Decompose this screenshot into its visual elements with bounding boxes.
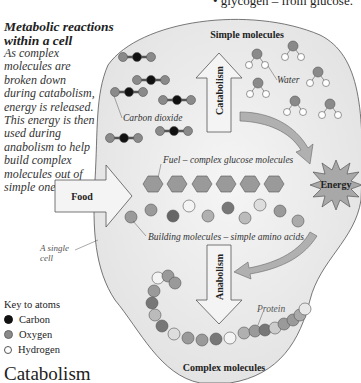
cell-label-line-1: A single [39,243,69,253]
food-label: Food [71,191,93,202]
key-item-oxygen: Oxygen [4,329,52,340]
oxygen-atom-icon [4,330,13,339]
carbon-atom-icon [4,315,13,324]
catabolism-label: Catabolism [214,65,225,115]
carbon-dioxide-label: Carbon dioxide [123,113,182,123]
building-molecules-label: Building molecules – simple amino acids [148,232,304,242]
cell-label-line-2: cell [40,253,53,263]
fuel-label: Fuel – complex glucose molecules [162,155,294,165]
water-label: Water [277,75,300,85]
complex-molecules-label: Complex molecules [183,362,266,373]
hydrogen-atom-icon [4,346,12,354]
energy-label: Energy [320,179,351,190]
protein-label: Protein [256,304,285,314]
key-item-carbon: Carbon [4,314,50,325]
key-title: Key to atoms [4,299,60,310]
simple-molecules-label: Simple molecules [210,29,284,40]
section-title: Catabolism [4,363,91,383]
key-item-hydrogen: Hydrogen [4,344,60,355]
metabolism-diagram: Simple molecules Carbon dioxide Cataboli… [0,0,361,383]
anabolism-label: Anabolism [214,253,225,300]
